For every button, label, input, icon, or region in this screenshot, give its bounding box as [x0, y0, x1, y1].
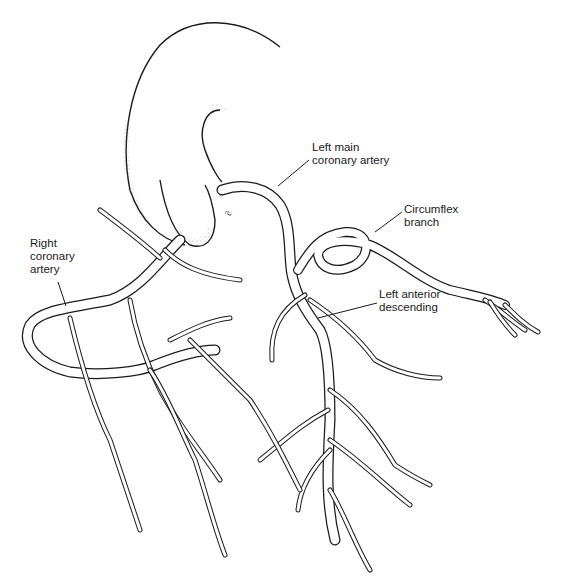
- coronary-artery-diagram: ∂ Left main coronary artery Circumflex b…: [0, 0, 563, 582]
- label-right-coronary-artery: Right coronary artery: [30, 237, 75, 276]
- label-left-anterior-descending: Left anterior descending: [379, 288, 440, 314]
- label-left-main-coronary-artery: Left main coronary artery: [312, 141, 389, 167]
- label-circumflex-branch: Circumflex branch: [404, 203, 458, 229]
- left-anterior-descending-artery: [260, 295, 440, 570]
- aorta-outline: [126, 23, 280, 247]
- annotation-mark: ∂: [223, 210, 234, 216]
- artery-illustration: ∂: [0, 0, 563, 582]
